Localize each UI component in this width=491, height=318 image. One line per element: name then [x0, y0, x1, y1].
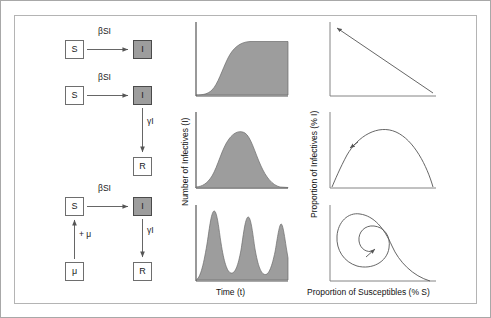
- sir-births-phase-chart: [330, 205, 436, 281]
- sirb-timeseries-area: [196, 211, 288, 280]
- sir-timeseries-chart: [196, 112, 288, 188]
- si-timeseries-area: [196, 42, 288, 96]
- diagram-arrows: [75, 50, 143, 260]
- sir-timeseries-area: [196, 132, 288, 188]
- figure-root: S I βSI S I R βSI γI S I R μ βSI γI + μ …: [0, 0, 491, 318]
- si-phase-trajectory: [337, 28, 433, 93]
- sir-phase-trajectory: [332, 129, 433, 187]
- figure-vector-layer: [0, 0, 491, 318]
- sir-phase-chart: [330, 112, 436, 188]
- sirb-phase-trajectory: [337, 214, 430, 281]
- sir-births-timeseries-chart: [196, 205, 288, 281]
- sir-phase-direction-arrow: [350, 142, 358, 148]
- si-phase-chart: [330, 22, 436, 96]
- si-timeseries-chart: [196, 22, 288, 96]
- sirb-phase-direction-arrow: [366, 249, 375, 257]
